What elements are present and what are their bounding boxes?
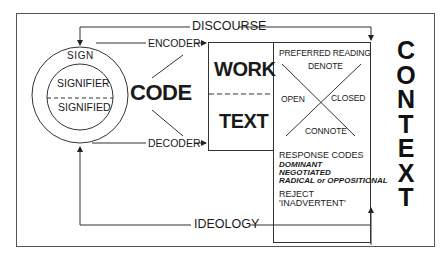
sign-outer-circle <box>32 47 128 143</box>
preferred-reading-title: PREFERRED READING <box>279 49 371 58</box>
response-codes-title: RESPONSE CODES <box>279 151 364 160</box>
ideology-line-left <box>80 147 191 225</box>
context-letter: C <box>392 38 420 63</box>
code-diagonal-lower <box>152 110 183 136</box>
open-label: OPEN <box>281 95 305 104</box>
sign-label: SIGN <box>67 51 94 61</box>
code-diagonal-upper <box>152 55 183 78</box>
semiotics-diagram: SIGN SIGNIFIER SIGNIFIED CODE ENCODER DE… <box>0 0 448 255</box>
response-radical-oppositional: RADICAL or OPPOSITIONAL <box>279 177 388 186</box>
code-label: CODE <box>130 82 192 104</box>
denote-label: DENOTE <box>308 62 343 71</box>
signified-label: SIGNIFIED <box>58 102 111 113</box>
closed-label: CLOSED <box>331 94 365 103</box>
text-label: TEXT <box>219 111 268 131</box>
context-letter: T <box>392 185 420 210</box>
context-vertical-label: C O N T E X T <box>392 38 420 210</box>
encoder-label: ENCODER <box>148 38 201 49</box>
context-letter: N <box>392 87 420 112</box>
decoder-label: DECODER <box>148 138 201 149</box>
context-letter: X <box>392 161 420 186</box>
sign-inner-circle <box>47 64 113 130</box>
reject-inadvertent: 'INADVERTENT' <box>279 199 346 208</box>
reading-box <box>274 43 371 243</box>
work-label: WORK <box>214 59 275 79</box>
context-letter: T <box>392 112 420 137</box>
ideology-label: IDEOLOGY <box>194 218 259 231</box>
context-letter: E <box>392 136 420 161</box>
discourse-label: DISCOURSE <box>192 20 266 33</box>
context-letter: O <box>392 63 420 88</box>
signifier-label: SIGNIFIER <box>57 78 110 89</box>
connote-label: CONNOTE <box>305 127 347 136</box>
